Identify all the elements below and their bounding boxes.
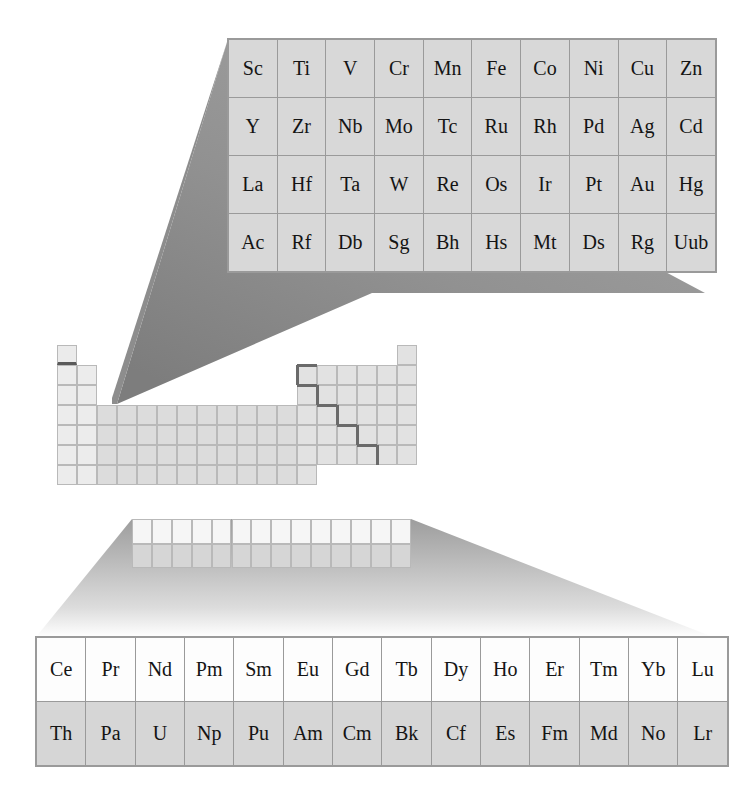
mini-cell-pblock[interactable] xyxy=(297,445,317,465)
element-cell[interactable]: Zn xyxy=(667,40,716,98)
element-cell[interactable]: Db xyxy=(326,214,375,272)
mini-cell-pblock[interactable] xyxy=(297,425,317,445)
mini-cell-group1[interactable] xyxy=(57,365,77,385)
mini-cell-pblock[interactable] xyxy=(397,365,417,385)
mini-cell-pblock[interactable] xyxy=(377,385,397,405)
mini-cell-pblock[interactable] xyxy=(297,385,317,405)
mini-cell-actinide[interactable] xyxy=(132,544,152,569)
element-cell[interactable]: Tm xyxy=(579,638,628,702)
element-cell[interactable]: Mn xyxy=(423,40,472,98)
mini-cell-lanthanide[interactable] xyxy=(371,519,391,544)
mini-cell-dblock[interactable] xyxy=(137,405,157,425)
mini-cell-dblock[interactable] xyxy=(117,405,137,425)
element-cell[interactable]: Ds xyxy=(569,214,618,272)
mini-cell-lanthanide[interactable] xyxy=(251,519,271,544)
element-cell[interactable]: Cr xyxy=(375,40,424,98)
mini-cell-hydrogen[interactable] xyxy=(57,345,77,365)
element-cell[interactable]: Hg xyxy=(667,156,716,214)
mini-cell-group2[interactable] xyxy=(77,385,97,405)
mini-cell-actinide[interactable] xyxy=(172,544,192,569)
mini-cell-dblock[interactable] xyxy=(97,425,117,445)
mini-cell-lanthanide[interactable] xyxy=(391,519,411,544)
element-cell[interactable]: Ag xyxy=(618,98,667,156)
mini-cell-group2[interactable] xyxy=(77,405,97,425)
mini-cell-dblock[interactable] xyxy=(197,465,217,485)
mini-cell-pblock[interactable] xyxy=(297,365,317,385)
element-cell[interactable]: Re xyxy=(423,156,472,214)
mini-cell-dblock[interactable] xyxy=(237,445,257,465)
mini-cell-dblock[interactable] xyxy=(277,425,297,445)
mini-cell-lanthanide[interactable] xyxy=(331,519,351,544)
element-cell[interactable]: Ir xyxy=(521,156,570,214)
mini-cell-lanthanide[interactable] xyxy=(132,519,152,544)
mini-cell-lanthanide[interactable] xyxy=(291,519,311,544)
element-cell[interactable]: Fe xyxy=(472,40,521,98)
mini-cell-lanthanide[interactable] xyxy=(192,519,212,544)
mini-cell-dblock[interactable] xyxy=(277,465,297,485)
mini-cell-dblock[interactable] xyxy=(237,465,257,485)
element-cell[interactable]: Uub xyxy=(667,214,716,272)
mini-cell-dblock[interactable] xyxy=(177,445,197,465)
mini-cell-pblock[interactable] xyxy=(337,385,357,405)
element-cell[interactable]: U xyxy=(135,702,184,766)
element-cell[interactable]: No xyxy=(629,702,678,766)
mini-cell-pblock[interactable] xyxy=(397,385,417,405)
mini-cell-group1[interactable] xyxy=(57,465,77,485)
element-cell[interactable]: Os xyxy=(472,156,521,214)
element-cell[interactable]: Hf xyxy=(277,156,326,214)
mini-cell-group1[interactable] xyxy=(57,405,77,425)
element-cell[interactable]: Au xyxy=(618,156,667,214)
mini-cell-pblock[interactable] xyxy=(317,425,337,445)
mini-cell-pblock[interactable] xyxy=(337,365,357,385)
mini-cell-dblock[interactable] xyxy=(257,405,277,425)
mini-cell-pblock[interactable] xyxy=(377,405,397,425)
mini-cell-helium[interactable] xyxy=(397,345,417,365)
mini-cell-actinide[interactable] xyxy=(351,544,371,569)
mini-cell-dblock[interactable] xyxy=(117,425,137,445)
mini-cell-pblock[interactable] xyxy=(397,405,417,425)
mini-cell-dblock[interactable] xyxy=(197,425,217,445)
mini-cell-pblock[interactable] xyxy=(397,425,417,445)
mini-cell-dblock[interactable] xyxy=(257,425,277,445)
element-cell[interactable]: Nd xyxy=(135,638,184,702)
mini-cell-pblock[interactable] xyxy=(337,405,357,425)
element-cell[interactable]: Pt xyxy=(569,156,618,214)
mini-cell-dblock[interactable] xyxy=(217,425,237,445)
element-cell[interactable]: Hs xyxy=(472,214,521,272)
element-cell[interactable]: Fm xyxy=(530,702,579,766)
element-cell[interactable]: Ho xyxy=(481,638,530,702)
mini-cell-dblock[interactable] xyxy=(177,425,197,445)
mini-cell-dblock[interactable] xyxy=(137,425,157,445)
mini-cell-dblock[interactable] xyxy=(177,465,197,485)
mini-cell-actinide[interactable] xyxy=(371,544,391,569)
mini-cell-pblock[interactable] xyxy=(297,405,317,425)
element-cell[interactable]: Pu xyxy=(234,702,283,766)
mini-cell-pblock[interactable] xyxy=(317,445,337,465)
element-cell[interactable]: Cm xyxy=(333,702,382,766)
element-cell[interactable]: Rh xyxy=(521,98,570,156)
mini-cell-dblock[interactable] xyxy=(217,445,237,465)
element-cell[interactable]: Sc xyxy=(229,40,278,98)
mini-cell-group2[interactable] xyxy=(77,465,97,485)
element-cell[interactable]: La xyxy=(229,156,278,214)
mini-cell-dblock[interactable] xyxy=(157,465,177,485)
mini-cell-pblock[interactable] xyxy=(357,365,377,385)
element-cell[interactable]: Pd xyxy=(569,98,618,156)
mini-cell-pblock[interactable] xyxy=(357,445,377,465)
mini-cell-dblock[interactable] xyxy=(217,465,237,485)
mini-cell-actinide[interactable] xyxy=(152,544,172,569)
element-cell[interactable]: Ru xyxy=(472,98,521,156)
element-cell[interactable]: Dy xyxy=(431,638,480,702)
mini-cell-pblock[interactable] xyxy=(297,465,317,485)
mini-cell-dblock[interactable] xyxy=(257,445,277,465)
mini-cell-lanthanide[interactable] xyxy=(311,519,331,544)
element-cell[interactable]: Ti xyxy=(277,40,326,98)
mini-cell-pblock[interactable] xyxy=(357,425,377,445)
mini-cell-dblock[interactable] xyxy=(277,405,297,425)
mini-cell-lanthanide[interactable] xyxy=(232,519,252,544)
element-cell[interactable]: Eu xyxy=(283,638,332,702)
element-cell[interactable]: Ac xyxy=(229,214,278,272)
element-cell[interactable]: V xyxy=(326,40,375,98)
mini-cell-actinide[interactable] xyxy=(291,544,311,569)
element-cell[interactable]: Ni xyxy=(569,40,618,98)
